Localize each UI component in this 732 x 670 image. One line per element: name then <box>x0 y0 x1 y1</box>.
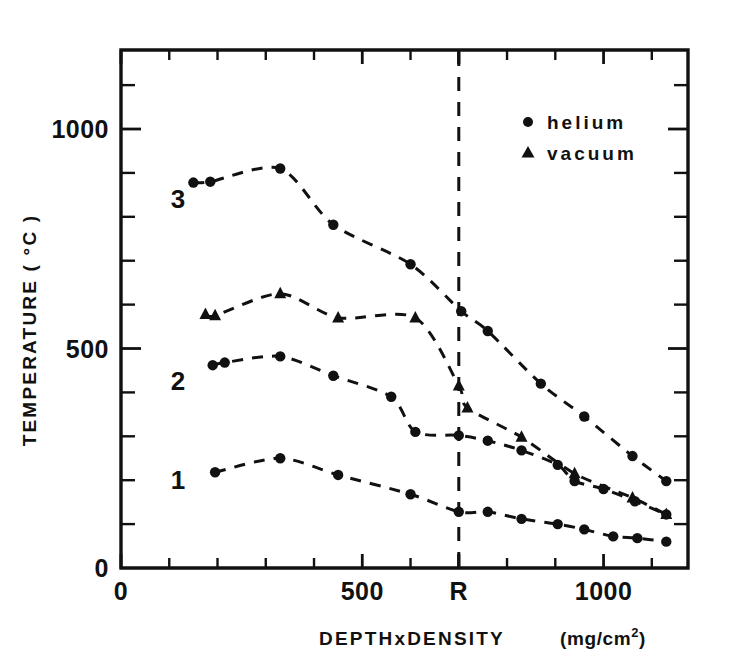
marker-circle <box>608 531 618 541</box>
legend-label-vacuum: vacuum <box>547 143 637 164</box>
marker-circle <box>536 378 546 388</box>
marker-circle <box>483 507 493 517</box>
marker-circle <box>661 536 671 546</box>
curve-label-2: 2 <box>171 366 185 396</box>
marker-circle <box>405 489 415 499</box>
marker-circle <box>579 524 589 534</box>
marker-circle <box>630 496 640 506</box>
marker-circle <box>516 514 526 524</box>
temperature-depth-density-chart: 0500R1000 05001000 321 heliumvacuum TEMP… <box>0 0 732 670</box>
marker-circle <box>456 306 466 316</box>
marker-circle <box>333 470 343 480</box>
x-axis-title: DEPTHxDENSITY <box>319 628 505 649</box>
marker-circle <box>627 451 637 461</box>
marker-circle <box>275 163 285 173</box>
marker-circle <box>483 435 493 445</box>
marker-circle <box>188 177 198 187</box>
x-tick-label-2: R <box>450 577 469 605</box>
marker-circle <box>569 476 579 486</box>
marker-circle <box>386 392 396 402</box>
marker-circle <box>661 509 671 519</box>
curve-label-1: 1 <box>171 465 185 495</box>
marker-circle <box>210 467 220 477</box>
y-tick-label-2: 1000 <box>51 115 109 143</box>
marker-circle <box>410 427 420 437</box>
y-tick-label-1: 500 <box>66 335 109 363</box>
x-tick-label-0: 0 <box>114 577 128 605</box>
marker-circle <box>205 176 215 186</box>
x-tick-label-1: 500 <box>341 577 384 605</box>
marker-circle <box>454 507 464 517</box>
marker-circle <box>632 533 642 543</box>
marker-circle <box>579 411 589 421</box>
marker-circle <box>483 326 493 336</box>
legend-label-helium: helium <box>547 112 626 133</box>
marker-circle <box>661 476 671 486</box>
marker-circle <box>598 484 608 494</box>
marker-circle <box>553 460 563 470</box>
marker-circle <box>328 220 338 230</box>
marker-circle <box>275 351 285 361</box>
marker-circle <box>328 371 338 381</box>
curve-label-3: 3 <box>171 184 185 214</box>
y-tick-label-0: 0 <box>95 554 109 582</box>
x-tick-label-3: 1000 <box>575 577 633 605</box>
y-axis-title: TEMPERATURE ( °C ) <box>19 214 40 447</box>
legend-marker-circle <box>523 117 533 127</box>
marker-circle <box>516 445 526 455</box>
marker-circle <box>553 519 563 529</box>
chart-figure: 0500R1000 05001000 321 heliumvacuum TEMP… <box>0 0 732 670</box>
marker-circle <box>220 357 230 367</box>
marker-circle <box>275 453 285 463</box>
marker-circle <box>454 430 464 440</box>
marker-circle <box>405 259 415 269</box>
marker-circle <box>207 360 217 370</box>
